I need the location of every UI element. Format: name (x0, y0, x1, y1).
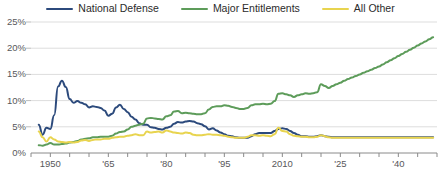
x-axis-tick-label: 2010 (272, 159, 293, 169)
series-line-national-defense (39, 81, 433, 138)
legend-label: Major Entitlements (213, 3, 300, 14)
y-axis-tick-label: 25% (0, 17, 26, 27)
y-axis-tick-label: 15% (0, 69, 26, 79)
x-axis-tick-label: '25 (334, 159, 346, 169)
y-axis-tick-label: 0% (0, 148, 26, 158)
x-axis-tick-label: '40 (392, 159, 404, 169)
x-axis-ticks (31, 153, 437, 157)
chart-legend: National Defense Major Entitlements All … (0, 0, 441, 17)
legend-item-major-entitlements[interactable]: Major Entitlements (181, 3, 300, 14)
legend-label: National Defense (78, 3, 159, 14)
data-series (39, 37, 433, 145)
legend-label: All Other (354, 3, 395, 14)
plot-area: 0%5%10%15%20%25% 1950'65'80'952010'25'40 (0, 17, 441, 185)
x-axis-tick-label: '65 (102, 159, 114, 169)
legend-item-all-other[interactable]: All Other (322, 3, 395, 14)
series-line-all-other (39, 128, 433, 143)
y-axis-tick-label: 20% (0, 43, 26, 53)
x-axis-tick-label: '95 (218, 159, 230, 169)
y-axis-tick-label: 5% (0, 122, 26, 132)
chart-container: National Defense Major Entitlements All … (0, 0, 441, 185)
line-swatch-icon (46, 8, 73, 10)
legend-item-national-defense[interactable]: National Defense (46, 3, 159, 14)
y-axis-ticks (26, 22, 31, 127)
gridlines (31, 22, 437, 127)
line-swatch-icon (322, 8, 349, 10)
y-axis-tick-label: 10% (0, 96, 26, 106)
line-swatch-icon (181, 8, 208, 10)
x-axis-tick-label: '80 (160, 159, 172, 169)
x-axis-tick-label: 1950 (40, 159, 61, 169)
series-line-major-entitlements (39, 37, 433, 145)
